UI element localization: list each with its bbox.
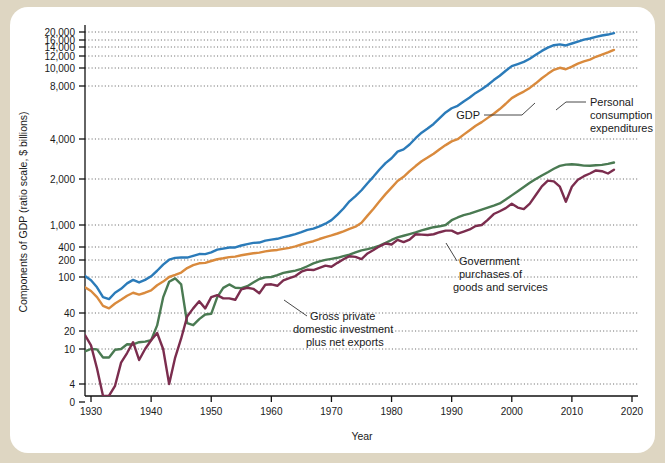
figure-frame: 041020401002004001,0002,0004,0008,00010,… (10, 7, 655, 453)
gov-leader-line (446, 243, 457, 261)
y-tick-label: 0 (69, 397, 75, 408)
y-tick-label: 100 (58, 272, 75, 283)
annotation-personal-consumption: Personal consumption expenditures (556, 96, 653, 134)
inv-label-line3: plus net exports (306, 336, 384, 348)
y-tick-labels: 041020401002004001,0002,0004,0008,00010,… (44, 27, 75, 408)
y-tick-label: 1,000 (50, 220, 75, 231)
x-tick-label: 1970 (320, 406, 343, 417)
y-tick-label: 2,000 (50, 174, 75, 185)
y-tick-label: 20,000 (44, 27, 75, 38)
y-tick-label: 20 (64, 326, 76, 337)
y-tick-label: 10,000 (44, 63, 75, 74)
gdp-leader-line (484, 103, 535, 115)
chart-svg: 041020401002004001,0002,0004,0008,00010,… (10, 7, 655, 453)
y-tick-label: 40 (64, 308, 76, 319)
x-tick-labels: 1930194019501960197019801990200020102020 (80, 406, 644, 417)
y-tick-label: 8,000 (50, 81, 75, 92)
x-tick-label: 1940 (140, 406, 163, 417)
annotation-government: Government purchases of goods and servic… (446, 243, 548, 293)
y-tick-label: 4,000 (50, 134, 75, 145)
x-tick-label: 2020 (621, 406, 644, 417)
annotation-investment: Gross private domestic investment plus n… (284, 300, 393, 348)
gov-label-line1: Government (459, 255, 520, 267)
series-line-gdp (85, 33, 614, 299)
y-tick-label: 200 (58, 255, 75, 266)
x-tick-label: 1990 (441, 406, 464, 417)
x-tick-label: 1980 (380, 406, 403, 417)
y-tick-label: 4 (69, 379, 75, 390)
inv-label-line1: Gross private (310, 310, 375, 322)
x-tick-label: 1950 (200, 406, 223, 417)
y-axis-title: Components of GDP (ratio scale, $ billio… (17, 111, 29, 312)
pce-label-line2: consumption (590, 109, 652, 121)
x-tick-label: 2000 (501, 406, 524, 417)
x-tick-label: 1930 (80, 406, 103, 417)
y-tick-label: 10 (64, 344, 76, 355)
x-tick-label: 1960 (260, 406, 283, 417)
pce-label-line1: Personal (590, 96, 633, 108)
y-tick-label: 400 (58, 242, 75, 253)
x-tick-label: 2010 (561, 406, 584, 417)
gov-label-line2: purchases of (459, 268, 523, 280)
x-axis-title: Year (351, 430, 373, 442)
pce-label-line3: expenditures (590, 122, 653, 134)
gdp-label: GDP (456, 109, 480, 121)
inv-leader-line (284, 300, 307, 316)
inv-label-line2: domestic investment (293, 323, 393, 335)
gov-label-line3: goods and services (453, 281, 548, 293)
pce-leader-line (556, 102, 586, 110)
